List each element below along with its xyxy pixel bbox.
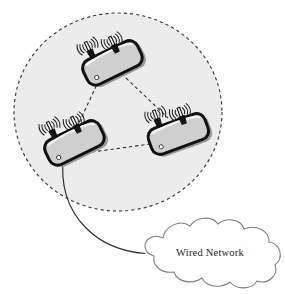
diagram-canvas: Wired Network — [0, 0, 285, 294]
wired-network-cloud[interactable]: Wired Network — [145, 218, 280, 288]
cloud-label: Wired Network — [176, 247, 244, 258]
network-topology-diagram: Wired Network — [0, 0, 285, 294]
